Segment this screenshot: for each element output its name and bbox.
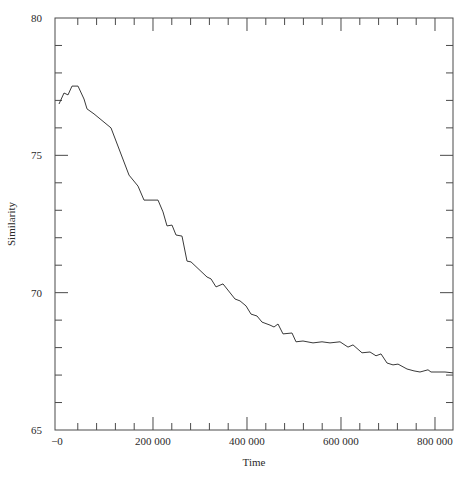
y-tick-label: 70 [31,287,43,299]
y-tick-label: 80 [31,12,43,24]
x-tick-label: 800 000 [417,435,453,447]
x-tick-label: −0 [51,435,63,447]
y-tick-label: 75 [31,149,43,161]
x-tick-label: 400 000 [229,435,265,447]
x-tick-labels: −0200 000400 000600 000800 000 [51,435,453,447]
line-chart: −0200 000400 000600 000800 000 65707580 … [0,0,466,478]
plot-frame [55,18,453,430]
x-tick-label: 600 000 [323,435,359,447]
series-line-similarity [59,86,453,373]
x-tick-label: 200 000 [135,435,171,447]
y-tick-labels: 65707580 [31,12,43,436]
x-axis-title: Time [243,456,266,468]
y-tick-label: 65 [31,424,43,436]
y-axis-title: Similarity [5,202,17,247]
axis-ticks [55,18,453,430]
